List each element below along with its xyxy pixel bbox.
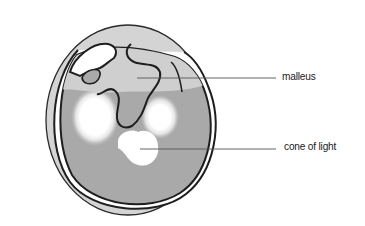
cone-of-light-label: cone of light bbox=[284, 140, 336, 152]
light-reflex-left bbox=[71, 88, 119, 146]
eardrum-diagram: malleus cone of light bbox=[0, 0, 365, 226]
malleus-label: malleus bbox=[282, 70, 316, 82]
eardrum-illustration bbox=[0, 0, 365, 226]
